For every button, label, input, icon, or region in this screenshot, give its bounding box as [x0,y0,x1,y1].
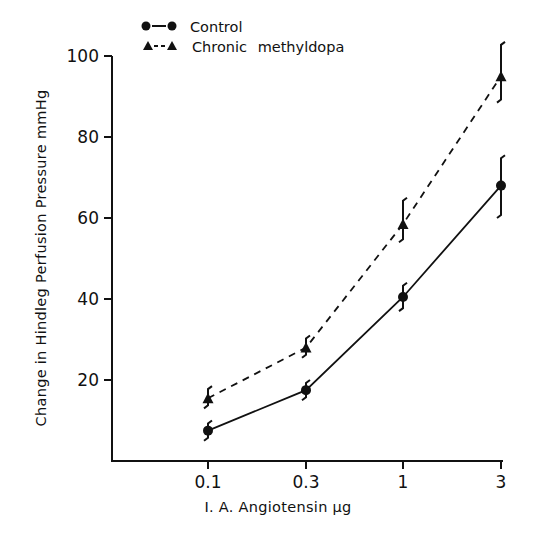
triangle-marker-icon [301,342,312,353]
y-tick-label: 20 [77,370,99,390]
data-series [203,42,507,441]
triangle-marker-icon [398,219,409,230]
y-tick-label: 100 [67,46,99,66]
x-tick-label: 3 [496,472,507,492]
solid-line [208,186,501,431]
circle-marker-icon [203,426,213,436]
x-axis-title: I. A. Angiotensin µg [204,499,351,515]
y-tick-label: 80 [77,127,99,147]
circle-marker-icon [398,292,408,302]
triangle-marker-icon [203,393,214,404]
legend: Control Chronic methyldopa [142,19,345,55]
y-tick-label: 60 [77,208,99,228]
series-control [203,155,506,441]
legend-label-control: Control [190,19,242,35]
dashed-line [208,76,501,398]
x-tick-label: 0.1 [194,472,221,492]
x-ticks: 0.10.313 [194,461,506,492]
triangle-marker-icon [167,41,177,50]
circle-marker-icon [142,22,151,31]
x-tick-label: 0.3 [292,472,319,492]
legend-item-methyldopa: Chronic methyldopa [143,39,344,55]
legend-item-control: Control [142,19,243,35]
legend-label-methyldopa: Chronic methyldopa [192,39,344,55]
y-ticks: 20406080100 [67,46,112,390]
circle-marker-icon [168,22,177,31]
circle-marker-icon [496,181,506,191]
y-tick-label: 40 [77,289,99,309]
axes: 20406080100 0.10.313 [67,46,507,492]
x-tick-label: 1 [398,472,409,492]
line-chart: 20406080100 0.10.313 Change in Hindleg P… [0,0,536,534]
y-axis-title: Change in Hindleg Perfusion Pressure mmH… [33,90,49,427]
circle-marker-icon [301,385,311,395]
series-methyldopa [203,42,507,409]
triangle-marker-icon [496,71,507,82]
triangle-marker-icon [143,41,153,50]
